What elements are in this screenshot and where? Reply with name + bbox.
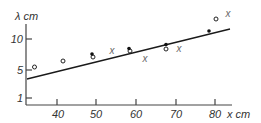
filled-dot-point bbox=[90, 52, 94, 56]
cross-point: x bbox=[109, 45, 116, 56]
cross-point: x bbox=[225, 8, 232, 19]
x-tick-label-40: 40 bbox=[52, 108, 65, 120]
open-circle-point bbox=[164, 47, 168, 51]
open-circle-point bbox=[61, 59, 65, 63]
x-tick-label-80: 80 bbox=[209, 108, 222, 120]
filled-dot-point bbox=[127, 47, 131, 51]
cross-point: x bbox=[176, 43, 183, 54]
x-tick-label-70: 70 bbox=[170, 108, 183, 120]
chart: 10 5 1 40 50 60 70 80 λ cm x cm x x x x bbox=[0, 0, 261, 123]
filled-dot-point bbox=[207, 29, 211, 33]
cross-series: x x x x bbox=[109, 8, 232, 64]
open-circle-point bbox=[33, 65, 37, 69]
y-axis-label: λ cm bbox=[14, 10, 38, 22]
open-circle-point bbox=[214, 17, 218, 21]
y-tick-label-1: 1 bbox=[17, 92, 23, 104]
x-tick-label-50: 50 bbox=[90, 108, 103, 120]
filled-dot-point bbox=[164, 43, 168, 47]
x-tick-label-60: 60 bbox=[130, 108, 143, 120]
filled-dot-series bbox=[90, 29, 211, 56]
y-tick-label-5: 5 bbox=[17, 64, 24, 76]
open-circle-series bbox=[33, 17, 219, 69]
x-axis-label: x cm bbox=[226, 108, 250, 120]
y-tick-label-10: 10 bbox=[11, 33, 24, 45]
fit-line bbox=[27, 29, 230, 79]
cross-point: x bbox=[142, 53, 149, 64]
